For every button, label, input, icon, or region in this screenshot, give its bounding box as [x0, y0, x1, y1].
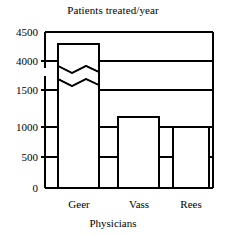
bar-geer	[58, 44, 99, 188]
x-tick-label-vass: Vass	[129, 198, 149, 210]
x-tick-label-geer: Geer	[68, 198, 89, 210]
bar-vass	[118, 117, 159, 188]
bar-chart: Patients treated/year 4500 4000 1500 100…	[0, 0, 226, 236]
bar-rees	[173, 127, 209, 188]
x-tick-label-rees: Rees	[180, 198, 201, 210]
x-axis-title: Physicians	[0, 217, 226, 229]
